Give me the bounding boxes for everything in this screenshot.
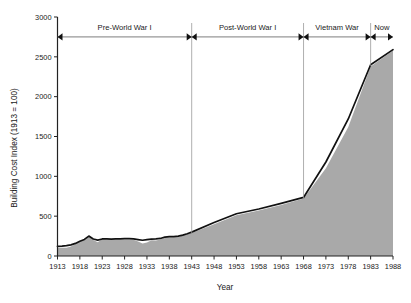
x-tick-label-1958: 1958: [251, 262, 267, 271]
x-tick-label-1938: 1938: [161, 262, 177, 271]
era-label-1: Post-World War I: [219, 23, 276, 32]
era-label-2: Vietnam War: [315, 23, 359, 32]
x-tick-label-1928: 1928: [116, 262, 132, 271]
y-tick-label-3000: 3000: [35, 13, 51, 22]
x-tick-label-1963: 1963: [273, 262, 289, 271]
y-tick-label-1500: 1500: [35, 132, 51, 141]
era-label-3: Now: [374, 23, 390, 32]
y-axis-title: Building Cost Index (1913 = 100): [10, 88, 19, 208]
building-cost-index-chart: 050010001500200025003000 191319181923192…: [0, 0, 411, 303]
y-tick-label-1000: 1000: [35, 172, 51, 181]
x-tick-label-1943: 1943: [183, 262, 199, 271]
x-tick-label-1948: 1948: [206, 262, 222, 271]
era-label-0: Pre-World War I: [98, 23, 152, 32]
x-tick-label-1953: 1953: [228, 262, 244, 271]
x-axis-title: Year: [217, 283, 234, 292]
x-tick-label-1978: 1978: [340, 262, 356, 271]
x-tick-label-1913: 1913: [49, 262, 65, 271]
chart-figure: 050010001500200025003000 191319181923192…: [0, 0, 411, 303]
x-tick-label-1973: 1973: [318, 262, 334, 271]
x-tick-label-1968: 1968: [295, 262, 311, 271]
x-tick-label-1933: 1933: [139, 262, 155, 271]
y-tick-label-2000: 2000: [35, 92, 51, 101]
y-tick-label-2500: 2500: [35, 53, 51, 62]
y-tick-label-0: 0: [47, 252, 51, 261]
x-tick-label-1923: 1923: [94, 262, 110, 271]
y-tick-label-500: 500: [39, 212, 51, 221]
x-tick-label-1983: 1983: [362, 262, 378, 271]
x-tick-label-1918: 1918: [72, 262, 88, 271]
x-tick-label-1988: 1988: [385, 262, 401, 271]
